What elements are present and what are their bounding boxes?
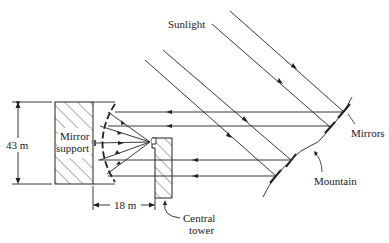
solar-diagram: Sunlight Mirror support: [0, 0, 389, 243]
reflected-rays: [98, 112, 344, 176]
mirror-support-label-2: support: [56, 142, 89, 154]
central-tower-label-1: Central: [183, 212, 215, 224]
sunlight-label: Sunlight: [168, 18, 205, 30]
height-dimension-label: 43 m: [6, 139, 29, 151]
distance-dimension-label: 18 m: [114, 199, 137, 211]
mirrors-label: Mirrors: [351, 127, 385, 139]
mountain-label: Mountain: [314, 175, 357, 187]
sun-ray-arrows: [226, 63, 297, 138]
heliostat-mirrors: [270, 104, 350, 183]
mirror-support-label-1: Mirror: [60, 130, 90, 142]
sun-ray-3: [163, 50, 291, 160]
central-tower-label-2: tower: [189, 224, 214, 236]
sun-ray-1: [230, 11, 344, 112]
central-tower: [152, 138, 172, 198]
